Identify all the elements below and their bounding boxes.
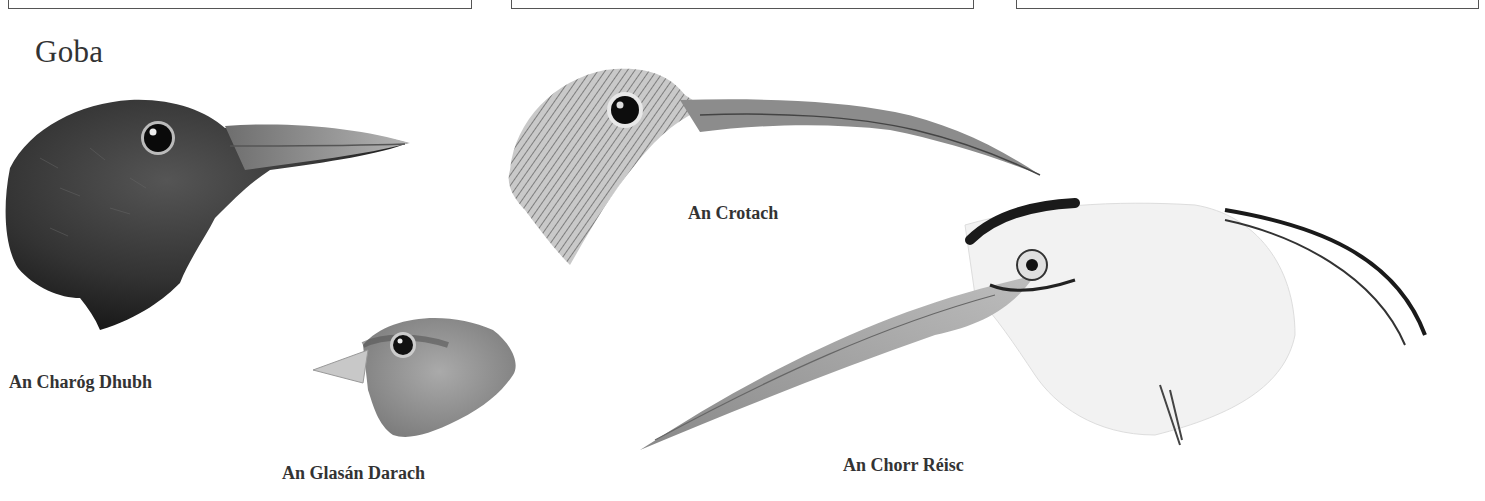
top-box-2	[511, 0, 974, 9]
caption-blackbird: An Charóg Dhubh	[9, 372, 152, 393]
caption-heron: An Chorr Réisc	[843, 455, 964, 476]
heron-head-illustration	[635, 185, 1445, 460]
top-box-3	[1016, 0, 1479, 9]
chaffinch-head-illustration	[308, 305, 528, 445]
section-title: Goba	[35, 34, 103, 70]
top-box-1	[8, 0, 472, 9]
blackbird-head-illustration	[0, 88, 420, 338]
caption-chaffinch: An Glasán Darach	[282, 463, 425, 484]
